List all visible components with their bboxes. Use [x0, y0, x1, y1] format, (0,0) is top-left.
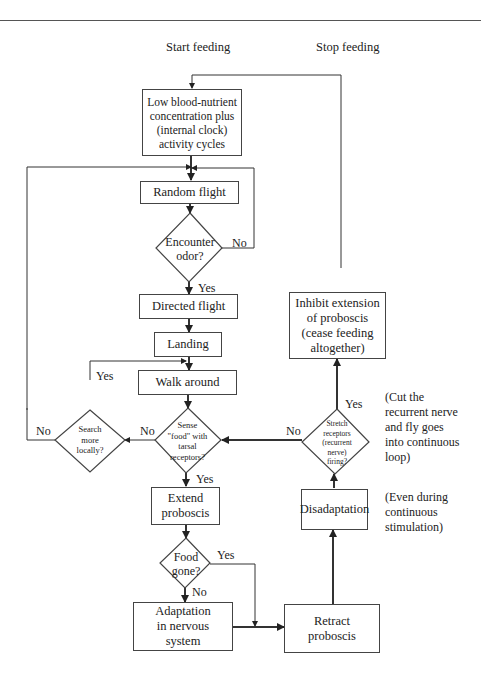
label-search-yes: Yes [96, 369, 113, 384]
label-search-no: No [36, 424, 51, 439]
note-cut-recurrent-nerve: (Cut the recurrent nerve and fly goes in… [385, 390, 459, 465]
node-random-flight: Random flight [140, 181, 239, 204]
node-walk-around: Walk around [138, 370, 237, 395]
search-locally-text: Search more locally? [62, 422, 118, 458]
node-low-blood-nutrient: Low blood-nutrient concentration plus (i… [142, 89, 242, 156]
sense-food-text: Sense "food" with tarsal receptors? [160, 413, 215, 469]
node-landing: Landing [154, 332, 222, 357]
label-sense-no: No [140, 424, 155, 439]
encounter-odor-text: Encounter odor? [160, 232, 220, 266]
label-food-no: No [192, 585, 207, 600]
label-odor-yes: Yes [198, 281, 215, 296]
node-inhibit-extension: Inhibit extension of proboscis (cease fe… [289, 292, 386, 359]
label-stretch-yes: Yes [345, 397, 362, 412]
label-odor-no: No [232, 236, 247, 251]
stretch-receptors-text: Stretch receptors (recurrent nerve) firi… [310, 415, 364, 471]
node-disadaptation: Disadaptation [301, 489, 368, 530]
node-retract-proboscis: Retract proboscis [284, 604, 380, 653]
node-directed-flight: Directed flight [139, 294, 238, 319]
food-gone-text: Food gone? [166, 548, 206, 580]
node-extend-proboscis: Extend proboscis [151, 487, 220, 525]
note-even-during-stimulation: (Even during continuous stimulation) [385, 490, 448, 535]
label-sense-yes: Yes [196, 472, 213, 487]
label-food-yes: Yes [217, 548, 234, 563]
node-adaptation: Adaptation in nervous system [133, 602, 233, 651]
label-stretch-no: No [286, 424, 301, 439]
